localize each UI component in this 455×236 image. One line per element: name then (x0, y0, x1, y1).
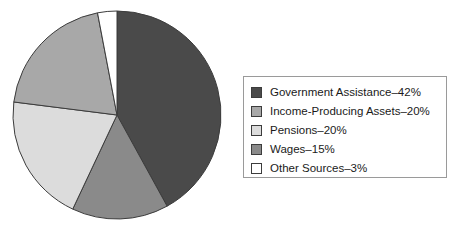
legend-item-wages: Wages–15% (251, 140, 446, 159)
legend-swatch-icon-income-producing-assets (251, 106, 262, 117)
pie-chart-graphic (10, 6, 226, 228)
pie-chart-figure: Government Assistance–42% Income-Produci… (0, 0, 455, 236)
legend-label-income-producing-assets: Income-Producing Assets–20% (270, 105, 430, 118)
legend-item-income-producing-assets: Income-Producing Assets–20% (251, 102, 446, 121)
pie-slice-group (13, 11, 221, 219)
legend-label-pensions: Pensions–20% (270, 124, 347, 137)
legend-label-wages: Wages–15% (270, 143, 335, 156)
legend-item-other-sources: Other Sources–3% (251, 159, 446, 178)
pie-svg (10, 6, 226, 228)
legend-swatch-icon-government-assistance (251, 87, 262, 98)
legend-swatch-icon-other-sources (251, 163, 262, 174)
legend-swatch-icon-wages (251, 144, 262, 155)
legend-label-government-assistance: Government Assistance–42% (270, 86, 421, 99)
legend-swatch-icon-pensions (251, 125, 262, 136)
chart-legend: Government Assistance–42% Income-Produci… (243, 76, 447, 178)
legend-item-pensions: Pensions–20% (251, 121, 446, 140)
legend-item-government-assistance: Government Assistance–42% (251, 83, 446, 102)
legend-label-other-sources: Other Sources–3% (270, 162, 367, 175)
